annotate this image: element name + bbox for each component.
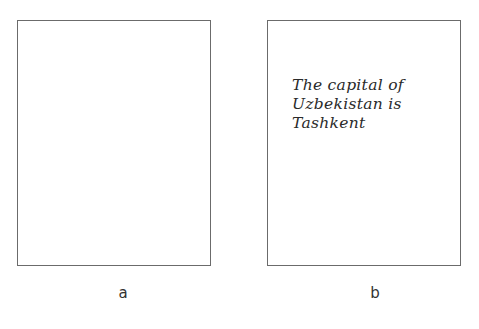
written-page-b: The capital of Uzbekistan is Tashkent — [267, 20, 461, 266]
caption-a: a — [113, 284, 133, 302]
caption-b: b — [365, 284, 385, 302]
blank-page-a — [17, 20, 211, 266]
handwritten-note: The capital of Uzbekistan is Tashkent — [292, 76, 457, 133]
